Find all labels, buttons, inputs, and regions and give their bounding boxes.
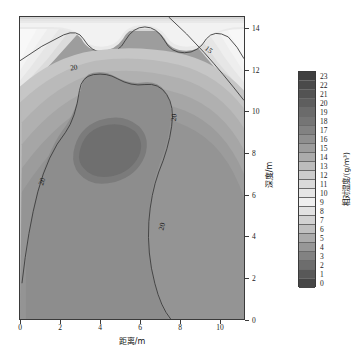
colorbar bbox=[298, 71, 316, 287]
contour-figure: 0 2 4 6 8 10 0 2 4 6 8 10 12 14 距离/m 深度/… bbox=[0, 0, 361, 359]
colorbar-tick-label: 5 bbox=[320, 233, 324, 242]
colorbar-swatch bbox=[299, 189, 315, 198]
colorbar-tick-label: 17 bbox=[320, 125, 328, 134]
ytick-mark bbox=[245, 153, 249, 154]
contour-label-20: 20 bbox=[169, 113, 179, 122]
colorbar-swatch bbox=[299, 261, 315, 270]
colorbar-swatch bbox=[299, 252, 315, 261]
colorbar-swatch bbox=[299, 171, 315, 180]
ytick-mark bbox=[245, 28, 249, 29]
colorbar-tick-label: 18 bbox=[320, 116, 328, 125]
colorbar-tick-label: 11 bbox=[320, 179, 327, 188]
xtick-label: 2 bbox=[58, 323, 62, 332]
colorbar-tick-label: 1 bbox=[320, 269, 324, 278]
colorbar-swatch bbox=[299, 198, 315, 207]
colorbar-tick-label: 20 bbox=[320, 98, 328, 107]
xtick-label: 6 bbox=[138, 323, 142, 332]
colorbar-swatch bbox=[299, 108, 315, 117]
colorbar-swatch bbox=[299, 117, 315, 126]
colorbar-tick-label: 21 bbox=[320, 89, 328, 98]
ytick-mark bbox=[245, 111, 249, 112]
ytick-label: 4 bbox=[252, 232, 256, 241]
plot-area bbox=[19, 16, 245, 320]
ytick-mark bbox=[245, 236, 249, 237]
ytick-label: 12 bbox=[252, 66, 260, 75]
colorbar-swatch bbox=[299, 216, 315, 225]
colorbar-swatch bbox=[299, 234, 315, 243]
colorbar-tick-label: 13 bbox=[320, 161, 328, 170]
colorbar-swatch bbox=[299, 90, 315, 99]
colorbar-swatch bbox=[299, 144, 315, 153]
colorbar-tick-label: 4 bbox=[320, 242, 324, 251]
colorbar-title: 相对湿度/(g/m³) bbox=[340, 152, 351, 206]
colorbar-swatch bbox=[299, 180, 315, 189]
xtick-label: 0 bbox=[18, 323, 22, 332]
colorbar-tick-label: 10 bbox=[320, 188, 328, 197]
contour-label-20: 20 bbox=[69, 63, 78, 73]
colorbar-tick-label: 16 bbox=[320, 134, 328, 143]
colorbar-swatch bbox=[299, 135, 315, 144]
colorbar-swatch bbox=[299, 243, 315, 252]
colorbar-tick-label: 9 bbox=[320, 197, 324, 206]
ytick-label: 8 bbox=[252, 149, 256, 158]
colorbar-tick-label: 22 bbox=[320, 80, 328, 89]
colorbar-tick-label: 12 bbox=[320, 170, 328, 179]
colorbar-tick-label: 15 bbox=[320, 143, 328, 152]
y-axis-title: 深度/m bbox=[263, 162, 274, 189]
colorbar-swatch bbox=[299, 162, 315, 171]
ytick-label: 14 bbox=[252, 24, 260, 33]
xtick-label: 8 bbox=[178, 323, 182, 332]
ytick-mark bbox=[245, 278, 249, 279]
x-axis-title: 距离/m bbox=[119, 335, 146, 346]
xtick-label: 10 bbox=[216, 323, 224, 332]
colorbar-swatch bbox=[299, 72, 315, 81]
ytick-label: 0 bbox=[252, 316, 256, 325]
colorbar-tick-label: 6 bbox=[320, 224, 324, 233]
ytick-label: 10 bbox=[252, 107, 260, 116]
colorbar-tick-label: 19 bbox=[320, 107, 328, 116]
contour-canvas bbox=[20, 17, 244, 319]
colorbar-tick-label: 7 bbox=[320, 215, 324, 224]
ytick-mark bbox=[245, 195, 249, 196]
ytick-mark bbox=[245, 70, 249, 71]
colorbar-swatch bbox=[299, 207, 315, 216]
colorbar-swatch bbox=[299, 99, 315, 108]
ytick-label: 6 bbox=[252, 191, 256, 200]
colorbar-tick-label: 2 bbox=[320, 260, 324, 269]
colorbar-swatch bbox=[299, 126, 315, 135]
colorbar-tick-label: 0 bbox=[320, 278, 324, 287]
colorbar-swatch bbox=[299, 279, 315, 288]
xtick-label: 4 bbox=[98, 323, 102, 332]
colorbar-tick-label: 8 bbox=[320, 206, 324, 215]
colorbar-swatch bbox=[299, 225, 315, 234]
ytick-label: 2 bbox=[252, 274, 256, 283]
colorbar-tick-label: 14 bbox=[320, 152, 328, 161]
colorbar-tick-label: 3 bbox=[320, 251, 324, 260]
colorbar-swatch bbox=[299, 81, 315, 90]
ytick-mark bbox=[245, 320, 249, 321]
colorbar-swatch bbox=[299, 153, 315, 162]
colorbar-swatch bbox=[299, 270, 315, 279]
colorbar-tick-label: 23 bbox=[320, 71, 328, 80]
